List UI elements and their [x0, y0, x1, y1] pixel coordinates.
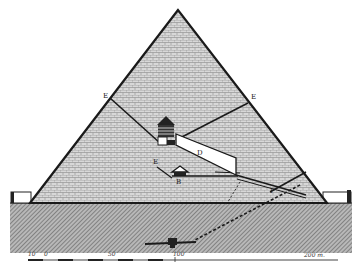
label-e-lower: E [153, 158, 158, 166]
label-f: F [270, 187, 275, 195]
scale-label-200m: 200 m. [303, 251, 325, 258]
enclosure-wall-left [11, 192, 31, 203]
label-e-left: E [103, 92, 108, 100]
scale-label-10: 10 [28, 250, 36, 257]
scale-label-0: 0 [44, 250, 48, 257]
scale-label-100: 100 [173, 250, 185, 257]
enclosure-wall-right [323, 190, 351, 203]
pyramid-section-diagram: E E E D B F 10 0 50 100 200 m. [0, 0, 363, 270]
label-b: B [176, 178, 181, 186]
scale-label-50: 50 [108, 250, 116, 257]
label-d: D [197, 149, 203, 157]
bedrock [10, 203, 352, 253]
label-e-right: E [251, 93, 256, 101]
